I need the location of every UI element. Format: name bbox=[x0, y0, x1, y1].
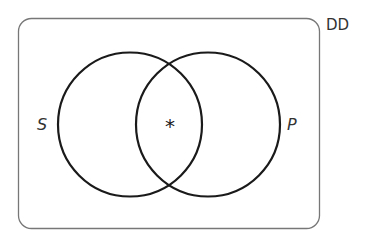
venn-diagram: DD S P * bbox=[0, 0, 368, 238]
set-s-circle bbox=[58, 53, 202, 197]
set-p-label: P bbox=[287, 115, 297, 134]
intersection-asterisk-marker: * bbox=[165, 114, 175, 138]
set-s-label: S bbox=[37, 115, 47, 134]
universe-label: DD bbox=[326, 16, 349, 34]
set-p-circle bbox=[136, 53, 280, 197]
